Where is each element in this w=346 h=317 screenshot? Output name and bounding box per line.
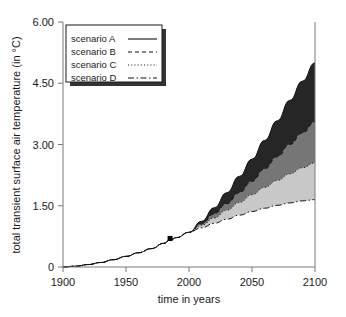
x-axis-title: time in years bbox=[158, 293, 221, 305]
chart-legend[interactable]: scenario Ascenario Bscenario Cscenario D bbox=[66, 25, 166, 86]
x-tick-label-2050: 2050 bbox=[240, 276, 264, 288]
observation-marker bbox=[168, 236, 173, 241]
x-tick-label-2000: 2000 bbox=[177, 276, 201, 288]
y-tick-label-1.50: 1.50 bbox=[33, 200, 54, 212]
chart-figure: 19001950200020502100 01.503.004.506.00 t… bbox=[0, 0, 346, 317]
x-tick-label-2100: 2100 bbox=[303, 276, 327, 288]
legend-label-scenario-c[interactable]: scenario C bbox=[71, 59, 117, 70]
x-tick-label-1900: 1900 bbox=[51, 276, 75, 288]
legend-label-scenario-b[interactable]: scenario B bbox=[71, 46, 116, 57]
y-tick-label-0: 0 bbox=[48, 261, 54, 273]
observation-marker-group bbox=[168, 236, 173, 241]
y-axis-title: total transient surface air temperature … bbox=[10, 36, 22, 253]
x-tick-label-1950: 1950 bbox=[114, 276, 138, 288]
y-tick-label-6.00: 6.00 bbox=[33, 16, 54, 28]
legend-label-scenario-a[interactable]: scenario A bbox=[71, 33, 116, 44]
y-tick-label-3.00: 3.00 bbox=[33, 139, 54, 151]
temperature-projection-chart: 19001950200020502100 01.503.004.506.00 t… bbox=[0, 0, 346, 317]
legend-label-scenario-d[interactable]: scenario D bbox=[71, 72, 117, 83]
y-tick-label-4.50: 4.50 bbox=[33, 77, 54, 89]
